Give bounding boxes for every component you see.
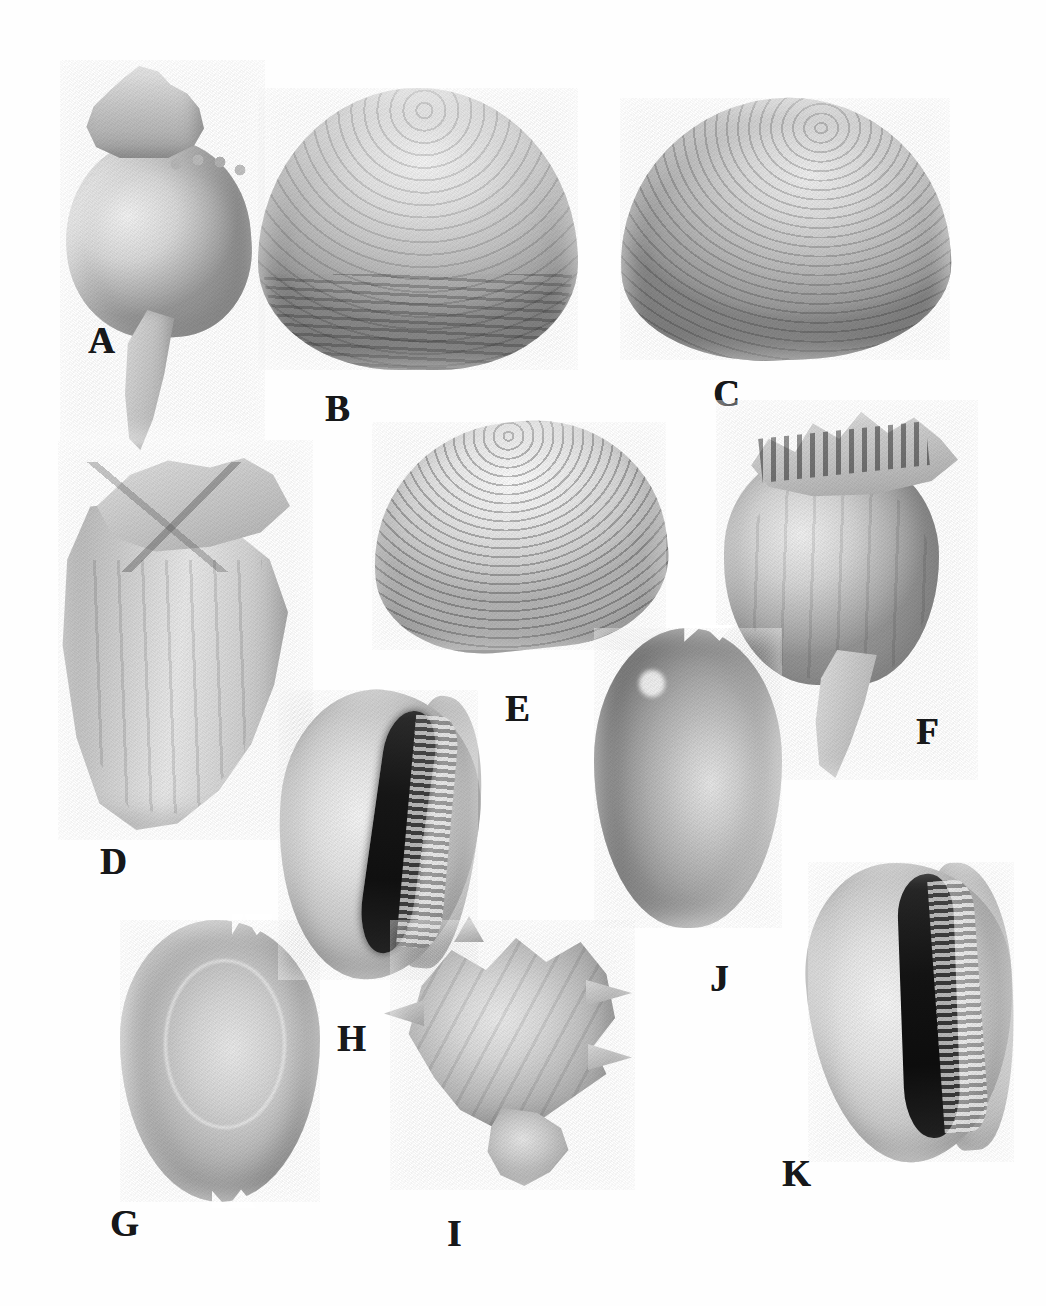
concentric-ribs — [361, 407, 677, 664]
specimen-label-h: H — [337, 1020, 366, 1057]
specimen-e-ribbed-venus-clam — [372, 422, 666, 650]
specimen-c-concentric-bivalve-valve — [620, 98, 950, 360]
specimen-j-cowrie-dorsal-dark — [594, 628, 782, 928]
specimen-label-j: J — [710, 960, 729, 997]
shell-spine-left — [384, 1000, 424, 1026]
specimen-label-f: F — [916, 713, 939, 750]
ventral-margin-band — [264, 274, 571, 370]
specimen-d-knobbed-gastropod — [58, 440, 313, 840]
concentric-growth-lines — [616, 92, 955, 365]
shell-spine-top — [454, 916, 484, 942]
shell-spire — [84, 66, 204, 158]
specimen-k-cowrie-ventral-view-2 — [808, 862, 1014, 1162]
specimen-label-g: G — [110, 1205, 139, 1242]
specimen-label-e: E — [505, 690, 530, 727]
specimen-label-a: A — [88, 322, 115, 359]
mantle-line — [164, 959, 286, 1129]
specimen-label-d: D — [100, 843, 127, 880]
shell-shoulder-nodes — [164, 152, 258, 206]
specimen-plate: A B C D — [0, 0, 1046, 1306]
specimen-i-spiny-murex-fragment — [390, 920, 635, 1190]
shell-spine-right-lower — [588, 1044, 632, 1070]
specimen-label-b: B — [325, 390, 350, 427]
shell-texture — [400, 930, 615, 1130]
shell-shoulder-spines — [76, 462, 291, 572]
specimen-label-k: K — [782, 1155, 811, 1192]
specimen-label-i: I — [447, 1215, 462, 1252]
cowrie-dorsum — [594, 628, 782, 928]
specimen-a-fusiform-gastropod — [60, 60, 265, 440]
specimen-b-smooth-bivalve-valve — [258, 88, 578, 370]
shell-eroded-base — [482, 1108, 574, 1186]
